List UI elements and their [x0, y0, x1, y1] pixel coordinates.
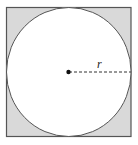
radius-label: r — [97, 57, 102, 71]
inscribed-circle-diagram: r — [0, 0, 138, 145]
center-point — [66, 70, 70, 74]
